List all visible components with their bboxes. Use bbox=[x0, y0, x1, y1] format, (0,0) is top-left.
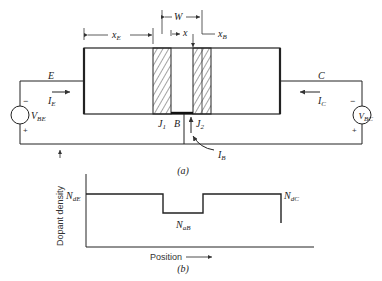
level-nab-label: NaB bbox=[175, 219, 191, 232]
y-axis-label: Dopant density bbox=[55, 185, 65, 246]
dim-xe-label: xE bbox=[111, 29, 121, 42]
caption-a: (a) bbox=[177, 165, 189, 177]
terminal-base-label: B bbox=[174, 118, 180, 129]
current-ie-label: IE bbox=[47, 95, 56, 108]
x-axis-label: Position bbox=[150, 252, 182, 262]
vbc-minus-sign: − bbox=[350, 96, 355, 106]
vbe-source-icon bbox=[11, 106, 29, 124]
current-ib-label: IB bbox=[217, 149, 226, 162]
transistor-bar bbox=[84, 48, 280, 114]
caption-b: (b) bbox=[177, 263, 189, 275]
junction-j1-label: J1 bbox=[158, 118, 166, 131]
level-nde-label: NdE bbox=[65, 190, 81, 203]
vbe-minus-sign: − bbox=[23, 96, 28, 106]
junction-j2-label: J2 bbox=[196, 118, 204, 131]
current-ic-label: IC bbox=[317, 95, 326, 108]
junction-j1-depletion bbox=[153, 48, 171, 114]
source-vbe-label: VBE bbox=[31, 110, 46, 123]
vbe-plus-sign: + bbox=[23, 126, 28, 135]
vbc-plus-sign: + bbox=[352, 126, 357, 135]
level-ndc-label: NdC bbox=[283, 190, 299, 203]
dim-w-label: W bbox=[174, 11, 184, 22]
dim-x-label: x bbox=[182, 27, 188, 38]
dimensions bbox=[84, 10, 215, 47]
bjt-diagram: xE W x xB E C IE IC IB J1 B J2 VBE VBC −… bbox=[0, 0, 382, 281]
dim-xb-label: xB bbox=[217, 28, 227, 41]
terminal-emitter-label: E bbox=[47, 70, 54, 81]
terminal-collector-label: C bbox=[318, 70, 325, 81]
